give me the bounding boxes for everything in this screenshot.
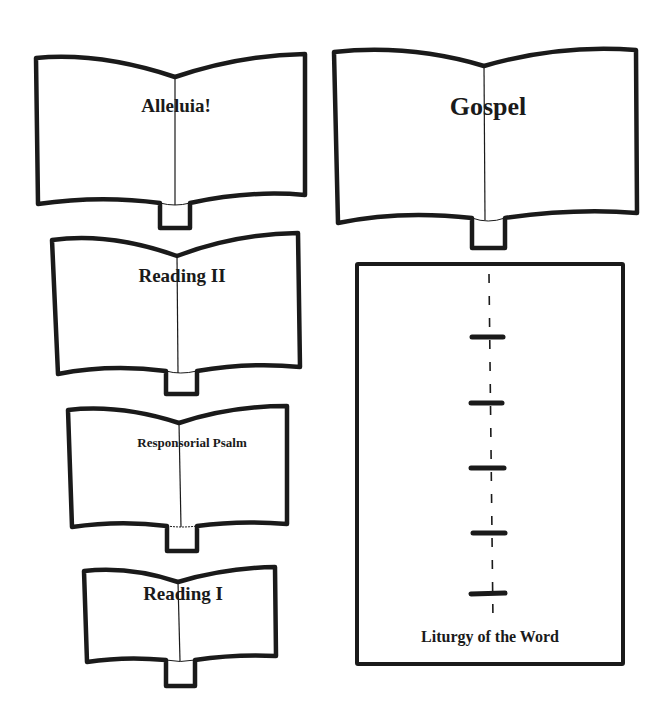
dashed-timeline-icon xyxy=(359,266,621,662)
timeline-markers xyxy=(471,337,505,594)
liturgy-diagram: Alleluia! Gospel Reading II Responsorial… xyxy=(0,0,668,720)
book-label-reading-1: Reading I xyxy=(143,583,223,605)
liturgy-of-the-word-panel: Liturgy of the Word xyxy=(355,262,625,666)
liturgy-of-the-word-label: Liturgy of the Word xyxy=(421,628,559,646)
